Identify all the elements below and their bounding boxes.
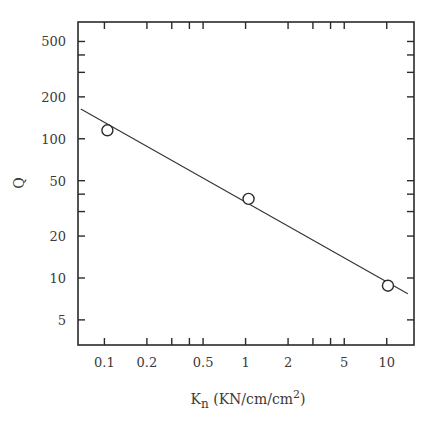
y-tick-label: 200 (41, 90, 66, 105)
y-tick-label: 50 (49, 174, 66, 189)
y-tick-label: 20 (49, 229, 66, 244)
x-tick-label: 0.1 (94, 355, 115, 370)
tick-marks (78, 22, 414, 345)
data-point (243, 193, 254, 204)
x-tick-label: 1 (241, 355, 249, 370)
data-point (382, 280, 393, 291)
plot-frame (78, 22, 414, 345)
y-tick-label: 10 (49, 271, 66, 286)
x-tick-label: 10 (378, 355, 395, 370)
y-tick-label: 5 (58, 313, 66, 328)
x-axis-label-main: K (191, 391, 202, 407)
y-tick-label: 100 (41, 132, 66, 147)
x-tick-label: 0.2 (137, 355, 158, 370)
data-point (102, 125, 113, 136)
chart: 0.10.20.5125105102050100200500 Q Kn (KN/… (0, 0, 430, 427)
x-axis-label: Kn (KN/cm/cm2) (191, 388, 306, 411)
y-axis-label: Q (11, 177, 27, 188)
x-axis-label-units: (KN/cm/cm (209, 391, 293, 407)
x-tick-label: 2 (284, 355, 292, 370)
x-axis-label-superscript: 2 (293, 388, 300, 401)
y-tick-label: 500 (41, 34, 66, 49)
series-layer (81, 109, 408, 294)
x-tick-label: 5 (340, 355, 348, 370)
tick-labels: 0.10.20.5125105102050100200500 (41, 34, 395, 370)
x-tick-label: 0.5 (193, 355, 214, 370)
x-axis-label-close: ) (300, 391, 305, 407)
